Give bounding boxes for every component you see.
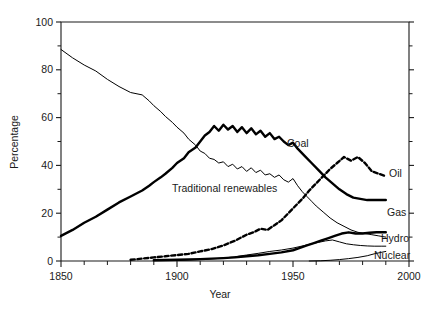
series-label-gas: Gas <box>387 206 406 218</box>
y-axis-title: Percentage <box>8 115 20 169</box>
chart-background <box>0 0 439 316</box>
x-tick-label: 1950 <box>281 270 305 282</box>
chart-canvas: 0204060801001850190019502000 CoalOilTrad… <box>0 0 439 316</box>
y-tick-label: 20 <box>41 207 53 219</box>
series-label-nuclear: Nuclear <box>374 249 411 261</box>
energy-transition-chart: 0204060801001850190019502000 CoalOilTrad… <box>0 0 439 316</box>
y-tick-label: 60 <box>41 111 53 123</box>
x-tick-label: 1900 <box>165 270 189 282</box>
x-axis-title: Year <box>209 288 231 300</box>
y-tick-label: 100 <box>35 16 53 28</box>
x-tick-label: 2000 <box>397 270 421 282</box>
series-label-coal: Coal <box>287 137 309 149</box>
y-tick-label: 40 <box>41 159 53 171</box>
series-label-traditional-renewables: Traditional renewables <box>172 182 277 194</box>
y-tick-label: 0 <box>47 255 53 267</box>
series-label-hydro: Hydro <box>381 232 409 244</box>
y-tick-label: 80 <box>41 63 53 75</box>
x-tick-label: 1850 <box>49 270 73 282</box>
series-label-oil: Oil <box>389 167 402 179</box>
